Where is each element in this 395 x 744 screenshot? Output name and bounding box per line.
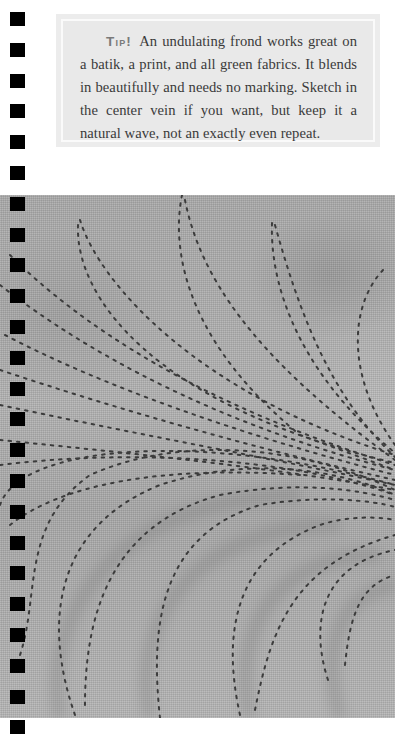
binding-hole <box>10 505 25 519</box>
quilt-photo <box>0 195 395 718</box>
binding-hole <box>10 74 25 88</box>
binding-hole <box>10 104 25 118</box>
binding-hole <box>10 351 25 365</box>
binding-hole <box>10 566 25 580</box>
binding-hole <box>10 597 25 611</box>
tip-paragraph: Tip! An undulating frond works great on … <box>80 30 357 145</box>
binding-hole <box>10 720 25 734</box>
binding-hole <box>10 628 25 642</box>
frond-stitching <box>0 195 395 718</box>
binding-hole <box>10 536 25 550</box>
tip-label: Tip! <box>106 34 132 49</box>
binding-hole <box>10 135 25 149</box>
binding-hole <box>10 412 25 426</box>
binding-hole <box>10 228 25 242</box>
tip-inner: Tip! An undulating frond works great on … <box>61 19 375 142</box>
binding-hole <box>10 474 25 488</box>
binding-hole <box>10 43 25 57</box>
binding-hole <box>10 166 25 180</box>
binding-hole <box>10 320 25 334</box>
binding-hole <box>10 12 25 26</box>
tip-body: An undulating frond works great on a bat… <box>80 33 357 141</box>
binding-hole <box>10 382 25 396</box>
binding-hole <box>10 690 25 704</box>
binding-hole <box>10 443 25 457</box>
tip-box: Tip! An undulating frond works great on … <box>56 14 380 147</box>
binding-hole <box>10 197 25 211</box>
binding-hole <box>10 258 25 272</box>
binding-hole <box>10 659 25 673</box>
binding-hole <box>10 289 25 303</box>
